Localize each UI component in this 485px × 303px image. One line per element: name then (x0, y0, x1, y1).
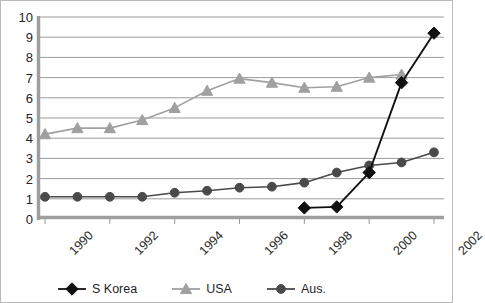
x-tick-label: 2002 (456, 229, 485, 258)
legend-marker-triangle-icon (171, 281, 201, 297)
y-axis: 109876543210 (1, 17, 33, 219)
legend-marker (276, 285, 285, 294)
series-usa (39, 69, 407, 139)
plot-svg (37, 17, 444, 219)
x-tick-label: 1998 (326, 229, 355, 258)
y-tick-label: 3 (1, 152, 33, 165)
x-tick-label: 1990 (67, 229, 96, 258)
data-point-marker (235, 183, 244, 192)
series-line (45, 75, 402, 135)
y-tick-label: 10 (1, 11, 33, 24)
y-tick-label: 8 (1, 51, 33, 64)
data-point-marker (268, 182, 277, 191)
legend-item[interactable]: Aus. (266, 281, 326, 297)
chart-legend: S KoreaUSAAus. (1, 277, 454, 301)
series-lines (39, 27, 440, 214)
y-tick-label: 6 (1, 92, 33, 105)
data-point-marker (201, 85, 212, 95)
legend-marker-circle-icon (266, 281, 296, 297)
y-tick-label: 4 (1, 132, 33, 145)
data-point-marker (105, 192, 114, 201)
y-tick-label: 1 (1, 193, 33, 206)
legend-marker-diamond-icon (57, 281, 87, 297)
x-tick-label: 1994 (197, 229, 226, 258)
plot-area (37, 17, 444, 219)
data-point-marker (300, 178, 309, 187)
y-tick-label: 9 (1, 31, 33, 44)
x-axis: 1990199219941996199820002002 (37, 221, 444, 269)
data-point-marker (169, 102, 180, 112)
data-point-marker (234, 73, 245, 83)
data-point-marker (170, 188, 179, 197)
data-point-marker (298, 202, 310, 214)
y-tick-label: 0 (1, 213, 33, 226)
y-tick-label: 5 (1, 112, 33, 125)
legend-item[interactable]: USA (171, 281, 232, 297)
legend-item[interactable]: S Korea (57, 281, 137, 297)
data-point-marker (73, 192, 82, 201)
legend-label: S Korea (92, 282, 137, 296)
legend-marker (66, 283, 78, 295)
data-point-marker (41, 192, 50, 201)
legend-label: USA (206, 282, 232, 296)
x-tick-label: 2000 (391, 229, 420, 258)
data-point-marker (430, 148, 439, 157)
data-point-marker (332, 168, 341, 177)
series-line (304, 33, 434, 208)
y-tick-label: 2 (1, 173, 33, 186)
x-tick-label: 1996 (262, 229, 291, 258)
data-point-marker (397, 158, 406, 167)
series-s-korea (298, 27, 440, 214)
x-tick-label: 1992 (132, 229, 161, 258)
legend-label: Aus. (301, 282, 326, 296)
data-point-marker (137, 114, 148, 124)
series-aus (41, 148, 439, 201)
data-point-marker (138, 192, 147, 201)
data-point-marker (203, 186, 212, 195)
y-tick-label: 7 (1, 72, 33, 85)
